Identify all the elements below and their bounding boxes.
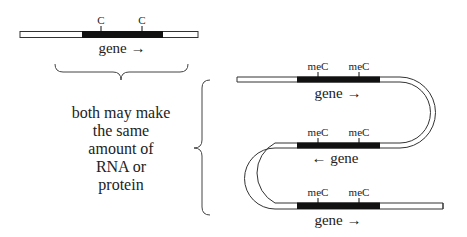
vertical-brace [194, 80, 210, 215]
horizontal-brace [55, 64, 188, 80]
gene-label: gene → [314, 212, 361, 228]
strand-top: meC meC gene → [297, 60, 380, 101]
gene-region [297, 143, 380, 149]
gene-region [297, 203, 380, 210]
methyl-site-label: meC [349, 60, 370, 72]
methyl-site-label: meC [349, 186, 370, 198]
methyl-site-label: meC [349, 126, 370, 138]
caption-line: protein [98, 176, 143, 194]
caption-line: both may make [72, 104, 171, 122]
gene-region [297, 77, 380, 83]
gene-label: ← gene [311, 150, 358, 166]
gene-label: gene → [98, 40, 145, 56]
methylated-dna: meC meC gene → meC meC ← gene meC meC ge… [237, 60, 443, 228]
caption-line: amount of [88, 140, 154, 157]
gene-label: gene → [314, 85, 361, 101]
caption-line: RNA or [96, 158, 147, 175]
caption-line: the same [93, 122, 149, 139]
strand-middle: meC meC ← gene [297, 126, 380, 166]
methyl-site-label: meC [308, 186, 329, 198]
unmethylated-dna: C C gene → [20, 14, 198, 56]
site-label: C [97, 14, 104, 26]
site-label: C [138, 14, 145, 26]
methylation-diagram: C C gene → both may make the same amount… [0, 0, 467, 237]
strand-bottom: meC meC gene → [297, 186, 380, 228]
methyl-site-label: meC [308, 60, 329, 72]
methyl-site-label: meC [308, 126, 329, 138]
gene-region [82, 31, 163, 38]
caption: both may make the same amount of RNA or … [72, 104, 171, 194]
